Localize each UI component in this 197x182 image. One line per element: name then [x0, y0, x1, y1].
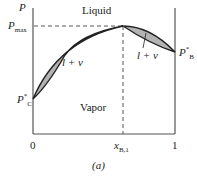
x-tick-0: 0 — [30, 140, 36, 151]
x-tick-1: 1 — [172, 140, 178, 151]
p-max-label: Pmax — [8, 20, 27, 31]
phase-diagram — [0, 0, 197, 182]
p-c-star-label: P*C — [17, 94, 32, 105]
left-lv-label: l + v — [62, 57, 83, 68]
liquid-region-label: Liquid — [82, 5, 111, 16]
y-axis-label: P — [19, 2, 26, 13]
azeotrope-x-label: xB,1 — [114, 140, 129, 151]
p-b-star-label: P*B — [179, 47, 194, 58]
right-lv-label: l + v — [137, 50, 158, 61]
vapor-region-label: Vapor — [80, 102, 106, 113]
figure-caption: (a) — [92, 160, 105, 171]
